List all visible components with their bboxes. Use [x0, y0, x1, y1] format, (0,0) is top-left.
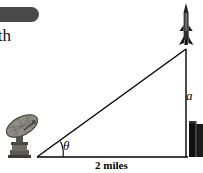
label-vertical-side: a [186, 88, 193, 104]
label-base-distance: 2 miles [95, 159, 128, 171]
figure-canvas: ith [0, 0, 203, 173]
hypotenuse-line [37, 49, 186, 157]
building-icon [189, 121, 203, 157]
satellite-dish-icon [3, 110, 41, 158]
label-angle-theta: θ [63, 138, 69, 154]
triangle-diagram [0, 0, 203, 173]
rocket-icon [179, 3, 193, 45]
